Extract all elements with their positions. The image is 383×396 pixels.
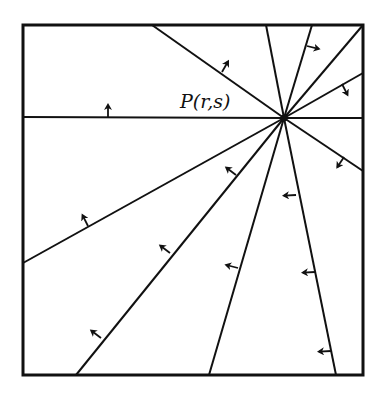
normal-arrow-icon (319, 351, 331, 352)
normal-arrow-icon (342, 84, 347, 95)
ray-line (284, 118, 363, 171)
ray-line (209, 118, 284, 375)
rays-group (23, 25, 363, 375)
normal-arrow-icon (303, 272, 315, 273)
point-label: P(r,s) (179, 90, 230, 112)
point-p (281, 115, 288, 122)
normal-arrow-icon (160, 246, 170, 253)
normal-arrow-icon (226, 265, 238, 268)
ray-line (23, 118, 284, 263)
normal-arrow-icon (83, 215, 88, 226)
normal-arrow-icon (222, 62, 228, 72)
normal-arrow-icon (91, 331, 101, 338)
ray-line (23, 117, 284, 118)
ray-line (284, 25, 363, 118)
normal-arrow-icon (284, 195, 296, 196)
ray-line (76, 118, 284, 375)
normal-arrow-icon (226, 168, 236, 175)
ray-line (284, 118, 336, 375)
normal-arrow-icon (337, 157, 344, 167)
frame-border (23, 25, 363, 375)
ray-line (266, 25, 284, 118)
diagram-canvas: P(r,s) (0, 0, 383, 396)
normal-arrow-icon (307, 46, 319, 49)
